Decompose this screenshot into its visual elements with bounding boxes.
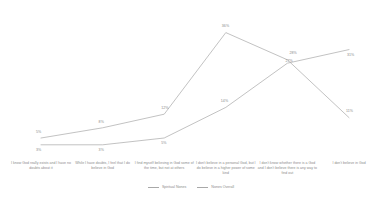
line-chart: 5%8%12%36%28%11%3%3%5%14%27%31% I know G…: [0, 0, 382, 208]
x-axis-label: I find myself believing in God some of t…: [133, 161, 195, 171]
legend-line-swatch: [197, 187, 208, 188]
data-point-label: 14%: [221, 100, 228, 104]
x-axis-label: I know God really exists and I have no d…: [10, 161, 72, 171]
legend-line-swatch: [148, 187, 159, 188]
series-line-spiritual-nones: [41, 33, 349, 138]
legend-item-nones-overall: Nones Overall: [197, 186, 234, 190]
data-point-label: 3%: [99, 149, 104, 153]
data-point-label: 28%: [289, 52, 296, 56]
x-axis-label: I don't believe in a personal God, but I…: [195, 161, 257, 176]
x-axis-category-labels: I know God really exists and I have no d…: [0, 161, 382, 185]
data-point-label: 5%: [161, 142, 166, 146]
data-point-label: 5%: [36, 131, 41, 135]
data-point-label: 31%: [347, 54, 354, 58]
chart-legend: Spiritual Nones Nones Overall: [0, 186, 382, 190]
data-point-label: 8%: [99, 121, 104, 125]
x-axis-label: I don't believe in God: [318, 161, 380, 166]
data-point-label: 3%: [36, 149, 41, 153]
x-axis-label: While I have doubts, I feel that I do be…: [72, 161, 134, 171]
legend-item-label: Nones Overall: [211, 186, 234, 190]
data-point-label: 12%: [161, 107, 168, 111]
legend-item-label: Spiritual Nones: [162, 186, 186, 190]
data-point-label: 27%: [285, 60, 292, 64]
data-point-label: 36%: [222, 25, 229, 29]
x-axis-label: I don't know whether there is a God and …: [256, 161, 318, 176]
legend-item-spiritual-nones: Spiritual Nones: [148, 186, 186, 190]
data-point-label: 11%: [346, 110, 353, 114]
